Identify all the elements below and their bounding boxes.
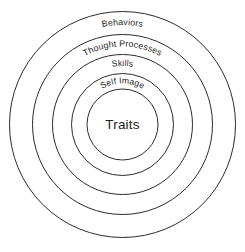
concentric-circles-canvas: Behaviors Thought Processes Skills Self … [0,0,245,252]
ring-label-self-image-textpath: Self Image [99,75,147,90]
ring-label-behaviors-textpath: Behaviors [101,17,144,29]
ring-label-thought-processes-textpath: Thought Processes [81,38,164,58]
ring-label-self-image: Self Image [99,75,147,90]
ring-label-thought-processes: Thought Processes [81,38,164,58]
ring-label-skills-textpath: Skills [111,58,134,69]
ring-label-skills: Skills [111,58,134,69]
concentric-circles-diagram: Behaviors Thought Processes Skills Self … [0,0,245,252]
core-label-traits: Traits [105,117,139,132]
ring-label-behaviors: Behaviors [101,17,144,29]
